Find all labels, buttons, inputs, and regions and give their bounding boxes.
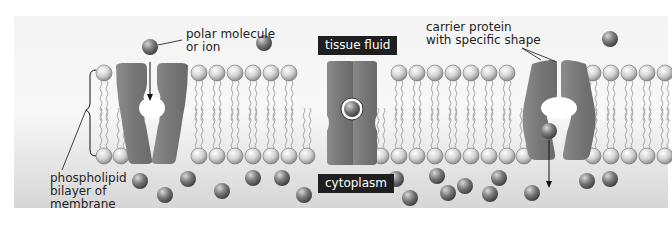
molecule-in-channel <box>344 101 360 117</box>
cytoplasm-label: cytoplasm <box>318 174 394 193</box>
bilayer-label-line3: membrane <box>50 198 127 211</box>
carrier-protein-label-line2: with specific shape <box>426 34 541 47</box>
bilayer-label: phospholipid bilayer of membrane <box>50 172 127 211</box>
molecule-in-carrier <box>541 123 557 139</box>
carrier-protein-label: carrier protein with specific shape <box>426 21 541 47</box>
polar-molecule-label-line2: or ion <box>186 41 275 54</box>
channel-protein-middle <box>327 61 377 165</box>
membrane-diagram: polar molecule or ion carrier protein wi… <box>0 0 672 226</box>
polar-molecule-label: polar molecule or ion <box>186 28 275 54</box>
tissue-fluid-label: tissue fluid <box>318 36 397 55</box>
